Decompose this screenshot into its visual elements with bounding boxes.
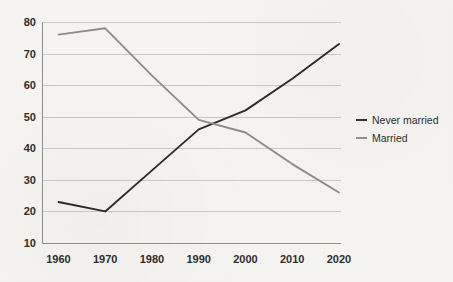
x-tick-label-1990: 1990 xyxy=(187,253,211,265)
y-tick-label-70: 70 xyxy=(24,48,36,60)
chart-legend: Never marriedMarried xyxy=(356,114,439,144)
x-tick-label-1980: 1980 xyxy=(140,253,164,265)
y-tick-label-50: 50 xyxy=(24,111,36,123)
y-tick-label-30: 30 xyxy=(24,174,36,186)
x-tick-label-2000: 2000 xyxy=(233,253,257,265)
x-axis-tick-labels: 1960197019801990200020102020 xyxy=(46,253,351,265)
x-tick-label-2010: 2010 xyxy=(280,253,304,265)
y-tick-label-60: 60 xyxy=(24,79,36,91)
x-tick-label-1970: 1970 xyxy=(93,253,117,265)
y-axis-tick-labels: 1020304050607080 xyxy=(24,16,36,249)
x-tick-label-1960: 1960 xyxy=(46,253,70,265)
line-chart: 1020304050607080 19601970198019902000201… xyxy=(0,0,453,282)
chart-axes xyxy=(43,22,342,244)
x-tick-label-2020: 2020 xyxy=(327,253,351,265)
y-tick-label-80: 80 xyxy=(24,16,36,28)
legend-label-married: Married xyxy=(372,132,408,144)
series-line-married xyxy=(59,28,340,192)
gridlines xyxy=(43,23,342,244)
data-series xyxy=(59,28,340,211)
y-tick-label-40: 40 xyxy=(24,142,36,154)
series-line-never-married xyxy=(59,44,340,211)
y-tick-label-10: 10 xyxy=(24,237,36,249)
chart-screenshot: 1020304050607080 19601970198019902000201… xyxy=(0,0,453,282)
y-tick-label-20: 20 xyxy=(24,205,36,217)
legend-label-never-married: Never married xyxy=(372,114,439,126)
